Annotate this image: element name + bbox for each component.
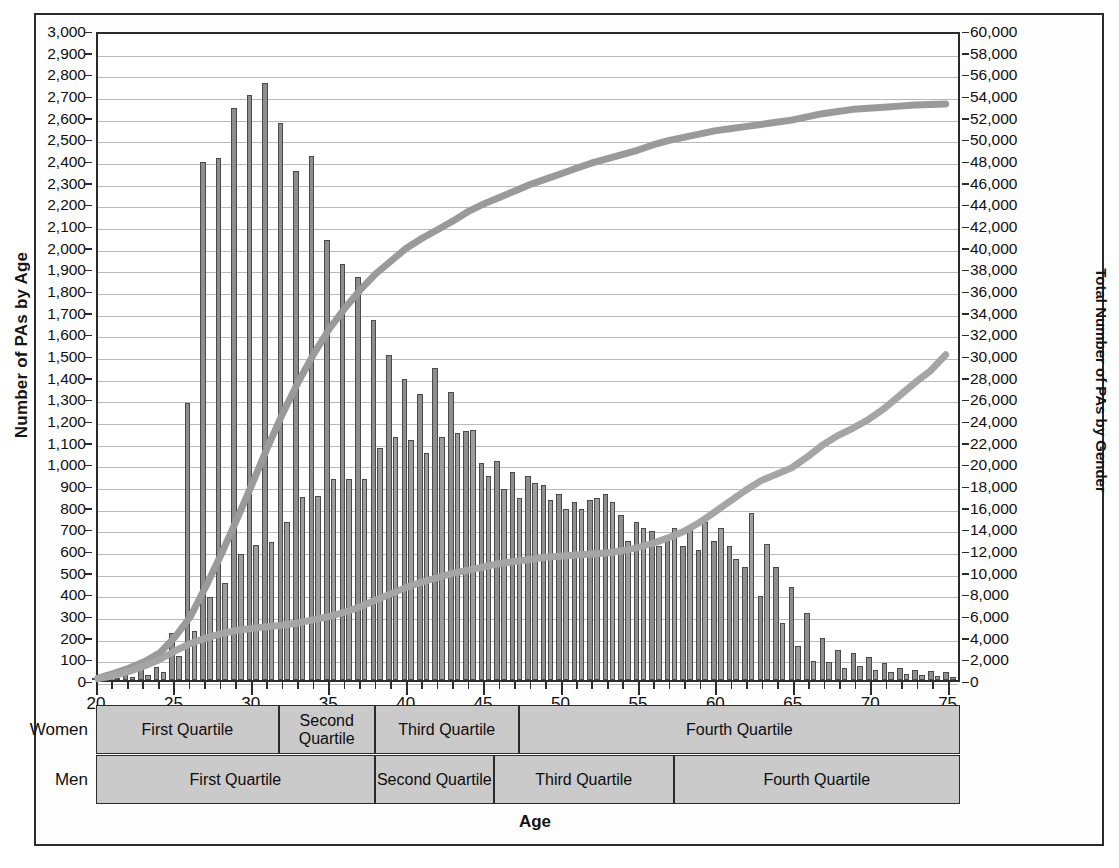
right-tick-mark <box>962 270 969 272</box>
right-tick-label: 44,000 <box>970 196 1017 214</box>
left-tick-mark <box>85 617 92 619</box>
left-tick-label: 1,200 <box>47 413 86 431</box>
right-tick-label: 42,000 <box>970 218 1017 236</box>
right-tick-label: 28,000 <box>970 370 1017 388</box>
right-tick-label: 48,000 <box>970 153 1017 171</box>
right-tick-label: 16,000 <box>970 500 1017 518</box>
quartile-box-women-2: Second Quartile <box>279 705 375 754</box>
right-tick-label: 56,000 <box>970 66 1017 84</box>
right-tick-label: 46,000 <box>970 175 1017 193</box>
right-tick-mark <box>962 313 969 315</box>
right-tick-label: 2,000 <box>970 651 1009 669</box>
right-tick-mark <box>962 357 969 359</box>
right-tick-label: 24,000 <box>970 413 1017 431</box>
left-tick-label: 2,900 <box>47 45 86 63</box>
right-tick-mark <box>962 118 969 120</box>
left-tick-mark <box>85 660 92 662</box>
x-tick-minor <box>235 682 237 689</box>
right-tick-label: 26,000 <box>970 391 1017 409</box>
left-tick-mark <box>85 227 92 229</box>
left-tick-label: 3,000 <box>47 23 86 41</box>
right-tick-label: 22,000 <box>970 435 1017 453</box>
quartile-box-men-1: First Quartile <box>96 755 375 804</box>
x-tick-minor <box>731 682 733 689</box>
left-tick-mark <box>85 205 92 207</box>
right-tick-mark <box>962 682 969 684</box>
left-tick-mark <box>85 682 92 684</box>
x-tick-minor <box>189 682 191 689</box>
right-tick-mark <box>962 465 969 467</box>
left-tick-mark <box>85 357 92 359</box>
right-tick-label: 60,000 <box>970 23 1017 41</box>
right-tick-label: 50,000 <box>970 131 1017 149</box>
left-tick-label: 1,400 <box>47 370 86 388</box>
x-tick-minor <box>158 682 160 689</box>
left-tick-mark <box>85 638 92 640</box>
left-tick-mark <box>85 32 92 34</box>
right-tick-label: 10,000 <box>970 565 1017 583</box>
right-tick-mark <box>962 400 969 402</box>
left-tick-mark <box>85 573 92 575</box>
left-tick-label: 1,800 <box>47 283 86 301</box>
right-axis-ticks: 60,00058,00056,00054,00052,00050,00048,0… <box>962 32 1082 682</box>
right-tick-mark <box>962 335 969 337</box>
left-tick-label: 2,400 <box>47 153 86 171</box>
x-tick-minor <box>808 682 810 689</box>
x-tick-minor <box>313 682 315 689</box>
right-tick-mark <box>962 97 969 99</box>
left-tick-mark <box>85 53 92 55</box>
x-tick-minor <box>824 682 826 689</box>
x-tick-minor <box>607 682 609 689</box>
x-tick-minor <box>111 682 113 689</box>
right-tick-label: 18,000 <box>970 478 1017 496</box>
left-tick-mark <box>85 270 92 272</box>
right-tick-mark <box>962 487 969 489</box>
x-tick-minor <box>468 682 470 689</box>
men-cumulative-line <box>98 355 946 679</box>
left-tick-label: 1,700 <box>47 305 86 323</box>
x-tick-minor <box>901 682 903 689</box>
left-tick-label: 400 <box>60 586 86 604</box>
x-tick-minor <box>220 682 222 689</box>
left-tick-mark <box>85 140 92 142</box>
x-tick-minor <box>359 682 361 689</box>
x-tick-minor <box>622 682 624 689</box>
right-tick-mark <box>962 75 969 77</box>
x-tick-minor <box>700 682 702 689</box>
x-tick-minor <box>530 682 532 689</box>
right-tick-label: 58,000 <box>970 45 1017 63</box>
left-tick-mark <box>85 552 92 554</box>
left-tick-label: 900 <box>60 478 86 496</box>
plot-area <box>96 32 960 682</box>
left-tick-label: 1,300 <box>47 391 86 409</box>
right-tick-mark <box>962 595 969 597</box>
cumulative-lines <box>98 34 958 680</box>
x-tick-minor <box>855 682 857 689</box>
right-tick-mark <box>962 552 969 554</box>
x-tick-minor <box>204 682 206 689</box>
x-tick-minor <box>917 682 919 689</box>
left-tick-mark <box>85 530 92 532</box>
right-tick-mark <box>962 183 969 185</box>
right-axis-title-text: Total Number of PAs by Gender <box>1093 268 1110 492</box>
right-tick-mark <box>962 617 969 619</box>
x-tick-minor <box>297 682 299 689</box>
left-tick-mark <box>85 443 92 445</box>
right-tick-label: 34,000 <box>970 305 1017 323</box>
left-tick-label: 100 <box>60 651 86 669</box>
right-tick-mark <box>962 140 969 142</box>
left-tick-label: 1,500 <box>47 348 86 366</box>
quartile-box-women-3: Third Quartile <box>375 705 519 754</box>
quartile-box-men-2: Second Quartile <box>375 755 494 804</box>
right-axis-title: Total Number of PAs by Gender <box>1086 130 1116 630</box>
left-axis-ticks: 3,0002,9002,8002,7002,6002,5002,4002,300… <box>0 32 92 682</box>
right-tick-label: 38,000 <box>970 261 1017 279</box>
right-tick-label: 14,000 <box>970 521 1017 539</box>
left-tick-label: 1,600 <box>47 326 86 344</box>
left-tick-mark <box>85 400 92 402</box>
left-tick-mark <box>85 162 92 164</box>
x-tick-minor <box>653 682 655 689</box>
x-tick-minor <box>669 682 671 689</box>
left-tick-label: 500 <box>60 565 86 583</box>
left-tick-label: 600 <box>60 543 86 561</box>
